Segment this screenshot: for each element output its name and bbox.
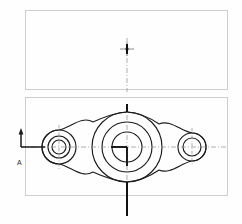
section-arrow-head: [19, 128, 24, 134]
section-label-a: A: [17, 159, 22, 166]
section-indicator-a: A: [17, 128, 45, 166]
technical-drawing-canvas: A: [0, 0, 242, 224]
bore-quadrant-detail: [111, 147, 127, 166]
elevation-view: [26, 11, 228, 93]
drawing-sheet: A: [0, 0, 242, 224]
plan-view: [21, 98, 228, 217]
